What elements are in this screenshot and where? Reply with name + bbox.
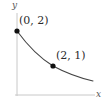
math-graph-figure: y x (0, 2) (2, 1) xyxy=(0,0,110,110)
plot-canvas xyxy=(0,0,110,110)
point-label-0-2: (0, 2) xyxy=(19,15,49,26)
y-axis-label: y xyxy=(12,1,17,10)
data-point-2-1 xyxy=(50,63,55,68)
data-point-0-2 xyxy=(14,28,19,33)
point-label-2-1: (2, 1) xyxy=(56,50,86,61)
x-axis-label: x xyxy=(96,90,101,99)
